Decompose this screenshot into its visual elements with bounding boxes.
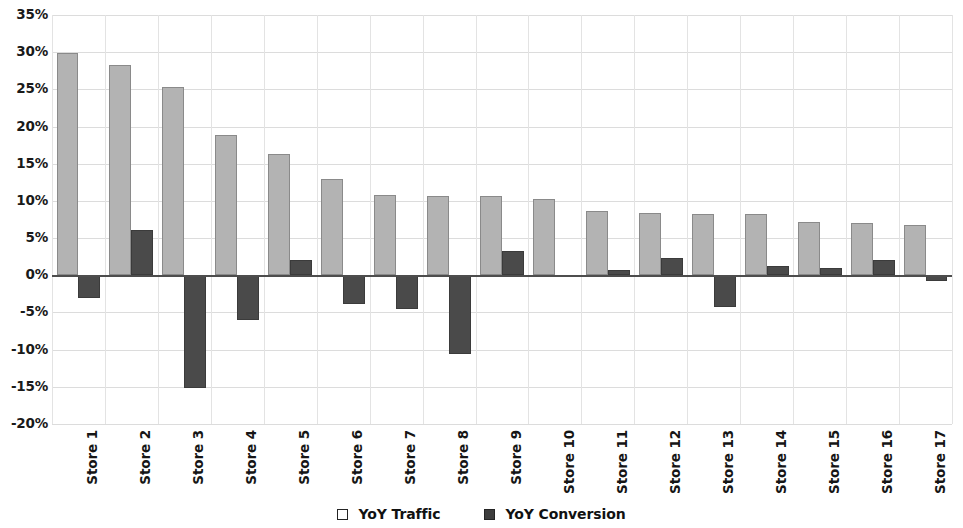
x-axis-tick-label: Store 7 [402, 430, 418, 502]
bar-yoy-traffic [427, 196, 449, 276]
bar-group [370, 15, 423, 424]
bar-group [476, 15, 529, 424]
bar-yoy-traffic [533, 199, 555, 275]
y-axis-tick-label: 20% [2, 120, 48, 134]
x-axis-tick-label: Store 13 [720, 430, 736, 502]
x-axis-tick-label: Store 16 [879, 430, 895, 502]
bar-yoy-traffic [109, 65, 131, 275]
bar-yoy-traffic [480, 196, 502, 275]
bar-yoy-conversion [131, 230, 153, 275]
bar-yoy-traffic [321, 179, 343, 276]
y-axis-tick-label: -15% [2, 380, 48, 394]
x-axis-tick-label: Store 17 [932, 430, 948, 502]
bar-yoy-traffic [586, 211, 608, 275]
bar-group [264, 15, 317, 424]
x-axis-tick-label: Store 5 [296, 430, 312, 502]
bar-yoy-traffic [639, 213, 661, 275]
open-square-icon [337, 509, 348, 520]
x-axis-tick-label: Store 8 [455, 430, 471, 502]
bar-group [740, 15, 793, 424]
legend-label: YoY Conversion [505, 506, 625, 522]
filled-square-icon [484, 509, 495, 520]
bar-group [158, 15, 211, 424]
zero-baseline [52, 275, 952, 277]
bar-yoy-conversion [502, 251, 524, 276]
bar-yoy-conversion [78, 275, 100, 297]
legend-label: YoY Traffic [358, 506, 440, 522]
x-axis: Store 1Store 2Store 3Store 4Store 5Store… [52, 424, 952, 496]
bar-group [581, 15, 634, 424]
y-axis-tick-label: 10% [2, 194, 48, 208]
y-axis-tick-label: 35% [2, 8, 48, 22]
bar-yoy-traffic [798, 222, 820, 276]
x-axis-tick-label: Store 9 [508, 430, 524, 502]
x-axis-tick-label: Store 12 [667, 430, 683, 502]
legend-item[interactable]: YoY Conversion [484, 506, 625, 522]
bar-group [52, 15, 105, 424]
bar-yoy-traffic [215, 135, 237, 276]
y-axis-tick-label: -10% [2, 343, 48, 357]
bar-group [423, 15, 476, 424]
bar-yoy-conversion [873, 260, 895, 275]
bar-yoy-traffic [374, 195, 396, 275]
bar-group [846, 15, 899, 424]
x-axis-tick-label: Store 3 [190, 430, 206, 502]
x-axis-tick-label: Store 6 [349, 430, 365, 502]
bar-yoy-conversion [184, 275, 206, 388]
y-axis-tick-label: -5% [2, 306, 48, 320]
y-axis-tick-label: -20% [2, 417, 48, 431]
bar-chart: 35%30%25%20%15%10%5%0%-5%-10%-15%-20% St… [0, 0, 963, 528]
x-axis-tick-label: Store 2 [137, 430, 153, 502]
y-axis-tick-label: 30% [2, 45, 48, 59]
x-axis-tick-label: Store 14 [773, 430, 789, 502]
y-axis: 35%30%25%20%15%10%5%0%-5%-10%-15%-20% [0, 15, 48, 424]
bar-group [211, 15, 264, 424]
legend-item[interactable]: YoY Traffic [337, 506, 440, 522]
x-axis-tick-label: Store 10 [561, 430, 577, 502]
bar-yoy-traffic [692, 214, 714, 276]
bar-yoy-conversion [290, 260, 312, 276]
bar-yoy-conversion [820, 268, 842, 275]
bar-group [634, 15, 687, 424]
bar-group [687, 15, 740, 424]
bar-group [528, 15, 581, 424]
bar-yoy-traffic [162, 87, 184, 275]
bar-group [105, 15, 158, 424]
bar-yoy-traffic [57, 53, 79, 275]
bar-yoy-conversion [661, 258, 683, 275]
bar-yoy-conversion [449, 275, 471, 354]
bar-yoy-conversion [237, 275, 259, 320]
bar-yoy-conversion [714, 275, 736, 307]
x-axis-tick-label: Store 11 [614, 430, 630, 502]
bar-group [899, 15, 952, 424]
bar-yoy-traffic [851, 223, 873, 275]
x-axis-tick-label: Store 15 [826, 430, 842, 502]
y-axis-tick-label: 15% [2, 157, 48, 171]
bar-yoy-conversion [343, 275, 365, 304]
bar-group [793, 15, 846, 424]
x-axis-tick-label: Store 4 [243, 430, 259, 502]
bar-yoy-traffic [268, 154, 290, 275]
bar-yoy-traffic [745, 214, 767, 275]
y-axis-tick-label: 25% [2, 83, 48, 97]
x-axis-tick-label: Store 1 [84, 430, 100, 502]
bar-yoy-conversion [767, 266, 789, 275]
plot-area [52, 15, 952, 424]
bar-group [317, 15, 370, 424]
vertical-gridline [952, 15, 953, 424]
y-axis-tick-label: 0% [2, 269, 48, 283]
bar-yoy-traffic [904, 225, 926, 275]
bar-yoy-conversion [396, 275, 418, 308]
chart-legend: YoY TrafficYoY Conversion [0, 500, 963, 528]
y-axis-tick-label: 5% [2, 231, 48, 245]
